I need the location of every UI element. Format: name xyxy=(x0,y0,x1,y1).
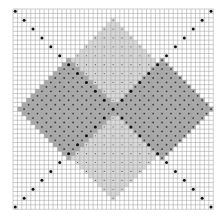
stitch-dot xyxy=(117,104,119,106)
stitch-dot xyxy=(68,99,70,101)
left-dark-diamond-cell xyxy=(53,143,57,147)
diagonal-dot xyxy=(103,99,106,102)
stitch-dot xyxy=(50,99,52,101)
stitch-dot xyxy=(63,68,65,70)
stitch-dot xyxy=(113,189,114,190)
center-light-diamond-cell xyxy=(115,160,119,164)
stitch-dot xyxy=(81,104,83,106)
center-light-diamond-cell xyxy=(89,143,93,147)
center-light-diamond-cell xyxy=(124,174,128,178)
right-dark-diamond-cell xyxy=(160,107,164,111)
right-dark-diamond-cell xyxy=(138,120,142,124)
stitch-dot xyxy=(86,144,87,145)
center-light-diamond-cell xyxy=(111,165,115,169)
stitch-dot xyxy=(188,113,190,115)
center-light-diamond-cell xyxy=(138,67,142,71)
stitch-dot xyxy=(130,73,131,74)
left-dark-diamond-cell xyxy=(80,125,84,129)
left-dark-diamond-cell xyxy=(80,143,84,147)
center-light-diamond-cell xyxy=(151,151,155,155)
right-dark-diamond-cell xyxy=(155,76,159,80)
center-light-diamond-cell xyxy=(89,165,93,169)
center-light-diamond-cell xyxy=(111,31,115,35)
center-light-diamond-cell xyxy=(115,49,119,53)
center-light-diamond-cell xyxy=(106,178,110,182)
center-light-diamond-cell xyxy=(129,76,133,80)
right-dark-diamond-cell xyxy=(124,116,128,120)
center-light-diamond-cell xyxy=(129,138,133,142)
stitch-dot xyxy=(72,139,74,141)
diagonal-dot xyxy=(14,10,17,13)
center-light-diamond-cell xyxy=(80,67,84,71)
stitch-dot xyxy=(121,189,122,190)
left-dark-diamond-cell xyxy=(53,107,57,111)
stitch-dot xyxy=(113,64,114,65)
stitch-dot xyxy=(113,162,114,163)
stitch-dot xyxy=(113,180,114,181)
left-dark-diamond-cell xyxy=(89,98,93,102)
center-light-diamond-cell xyxy=(120,58,124,62)
center-light-diamond-cell xyxy=(98,138,102,142)
stitch-dot xyxy=(152,95,154,97)
stitch-dot xyxy=(72,148,74,150)
stitch-dot xyxy=(86,64,87,65)
center-light-diamond-cell xyxy=(98,67,102,71)
stitch-dot xyxy=(188,122,190,124)
diagonal-dot xyxy=(156,152,159,155)
left-dark-diamond-cell xyxy=(98,107,102,111)
center-light-diamond-cell xyxy=(147,58,151,62)
stitch-dot xyxy=(95,171,96,172)
stitch-dot xyxy=(77,82,79,84)
stitch-dot xyxy=(37,95,39,97)
stitch-dot xyxy=(68,73,70,75)
stitch-dot xyxy=(104,153,105,154)
right-dark-diamond-cell xyxy=(160,151,164,155)
stitch-dot xyxy=(130,144,131,145)
stitch-dot xyxy=(134,130,136,132)
stitch-dot xyxy=(113,126,114,127)
stitch-dot xyxy=(192,99,194,101)
right-dark-diamond-cell xyxy=(178,98,182,102)
center-light-diamond-cell xyxy=(133,156,137,160)
stitch-dot xyxy=(139,126,141,128)
stitch-dot xyxy=(139,90,141,92)
diagonal-dot xyxy=(121,99,124,102)
stitch-dot xyxy=(99,104,101,106)
center-light-diamond-cell xyxy=(102,129,106,133)
stitch-dot xyxy=(121,64,122,65)
center-light-diamond-cell xyxy=(89,71,93,75)
left-dark-diamond-cell xyxy=(62,143,66,147)
right-dark-diamond-cell xyxy=(195,107,199,111)
diagonal-dot xyxy=(165,161,168,164)
stitch-dot xyxy=(152,122,154,124)
center-light-diamond-cell xyxy=(89,62,93,66)
stitch-dot xyxy=(201,99,203,101)
stitch-dot xyxy=(130,64,131,65)
stitch-dot xyxy=(130,99,132,101)
stitch-dot xyxy=(152,148,154,150)
stitch-dot xyxy=(63,77,65,79)
center-light-diamond-cell xyxy=(93,147,97,151)
center-light-diamond-cell xyxy=(124,165,128,169)
left-dark-diamond-cell xyxy=(58,111,62,115)
left-dark-diamond-cell xyxy=(35,107,39,111)
center-light-diamond-cell xyxy=(84,67,88,71)
center-light-diamond-cell xyxy=(120,156,124,160)
stitch-dot xyxy=(130,171,131,172)
center-light-diamond-cell xyxy=(84,165,88,169)
center-light-diamond-cell xyxy=(120,40,124,44)
center-light-diamond-cell xyxy=(133,54,137,58)
right-dark-diamond-cell xyxy=(129,120,133,124)
right-dark-diamond-cell xyxy=(160,62,164,66)
left-dark-diamond-cell xyxy=(31,94,35,98)
stitch-dot xyxy=(148,153,149,154)
stitch-dot xyxy=(197,113,199,115)
right-dark-diamond-cell xyxy=(164,120,168,124)
stitch-dot xyxy=(81,95,83,97)
stitch-dot xyxy=(183,117,185,119)
center-light-diamond-cell xyxy=(120,174,124,178)
left-dark-diamond-cell xyxy=(84,94,88,98)
left-dark-diamond-cell xyxy=(75,102,79,106)
stitch-dot xyxy=(170,86,172,88)
left-dark-diamond-cell xyxy=(62,71,66,75)
